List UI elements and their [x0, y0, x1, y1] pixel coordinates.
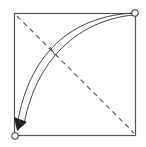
top-right-corner-marker — [132, 10, 138, 16]
bottom-left-corner-marker — [12, 133, 18, 139]
origami-fold-diagram — [0, 0, 146, 147]
